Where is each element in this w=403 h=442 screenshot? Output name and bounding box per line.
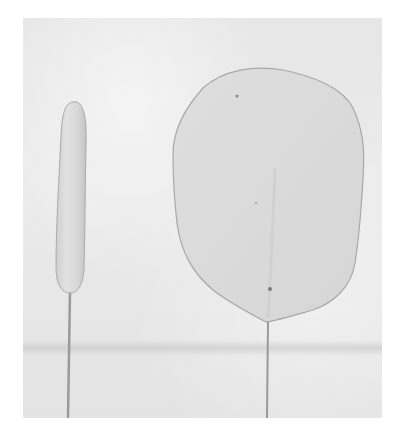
photo xyxy=(23,18,382,418)
leaf-speck xyxy=(268,287,272,291)
leaf-speck xyxy=(236,95,239,98)
flat-oval-leaf xyxy=(173,68,364,322)
left-wire xyxy=(68,290,70,418)
subjects xyxy=(23,18,382,418)
right-wire xyxy=(267,321,268,418)
leaf-speck xyxy=(255,202,257,204)
elongated-paste xyxy=(56,102,86,293)
